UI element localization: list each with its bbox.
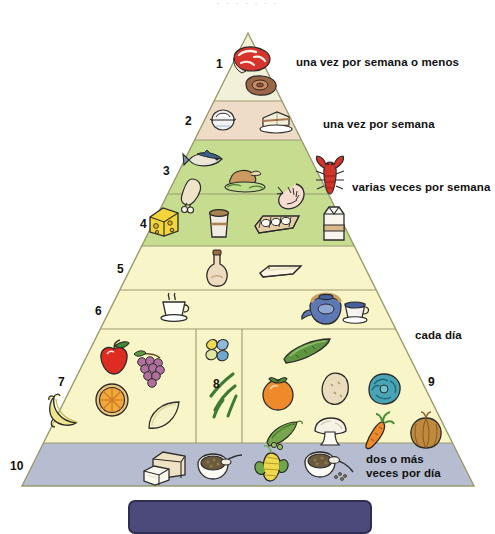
level-number-7: 7 [58, 376, 65, 388]
level-number-9: 9 [428, 376, 435, 388]
level-number-8: 8 [213, 378, 220, 390]
frequency-label-level-10: dos o más veces por día [366, 452, 441, 481]
frequency-label-level-3: varias veces por semana [352, 180, 490, 194]
yogurt-cup-icon [210, 210, 229, 237]
milk-carton-icon [324, 207, 344, 240]
cheese-icon [150, 208, 178, 236]
level-number-10: 10 [10, 460, 23, 472]
level-number-3: 3 [163, 165, 170, 177]
frequency-label-level-6: cada día [415, 328, 462, 342]
level-number-1: 1 [216, 58, 223, 70]
level-5-band [0, 246, 495, 290]
level-4-band [0, 194, 495, 246]
level-number-5: 5 [117, 263, 124, 275]
level-number-6: 6 [95, 305, 102, 317]
cabbage-icon [369, 374, 400, 404]
level-number-2: 2 [185, 115, 192, 127]
frequency-label-level-1: una vez por semana o menos [296, 55, 459, 69]
potato-icon [322, 373, 348, 404]
ham-slice-icon [246, 76, 276, 95]
frequency-label-level-2: una vez por semana [323, 117, 435, 131]
level-6-band [0, 290, 495, 329]
orange-slice-icon [96, 384, 128, 416]
footer-bar [128, 500, 372, 534]
level-number-4: 4 [140, 218, 147, 230]
